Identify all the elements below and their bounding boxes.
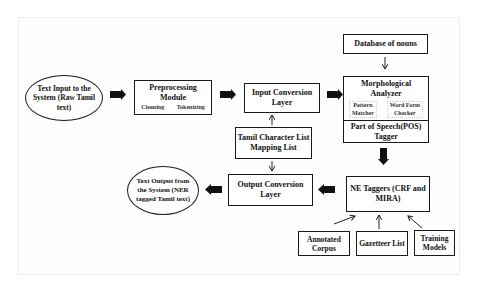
pattern-matcher: Pattern Matcher xyxy=(349,101,377,118)
training-line-2: Models xyxy=(423,243,446,252)
thin-arrow-training-to-ne xyxy=(408,216,422,228)
text-output-node: Text Output from the System (NER tagged … xyxy=(127,166,199,215)
word-form-checker-line-2: Checker xyxy=(390,110,421,118)
tamil-char-line-1: Tamil Character List xyxy=(238,133,310,143)
ne-taggers: NE Taggers (CRF and MIRA) xyxy=(346,176,430,212)
morph-title-1: Morphological xyxy=(361,79,411,89)
block-arrow-input-to-preprocessing xyxy=(110,89,126,100)
tamil-char-line-2: Mapping List xyxy=(250,143,296,153)
gazetteer-list: Gazetteer List xyxy=(356,231,408,256)
ne-line-1: NE Taggers (CRF and xyxy=(350,184,426,194)
pattern-matcher-line-2: Matcher xyxy=(352,110,374,118)
training-line-1: Training xyxy=(421,234,449,243)
database-of-nouns: Database of nouns xyxy=(343,34,428,54)
training-models: Training Models xyxy=(414,230,455,256)
morphological-analyzer: Morphological Analyzer Pattern Matcher W… xyxy=(343,76,429,143)
annotated-corpus: Annotated Corpus xyxy=(298,231,350,256)
tokenizing-label: Tokenizing xyxy=(177,104,205,112)
input-conversion-line-2: Layer xyxy=(272,98,292,108)
pos-line-1: Part of Speech(POS) xyxy=(344,122,428,132)
output-conversion-line-1: Output Conversion xyxy=(237,180,303,190)
text-input-node: Text Input to the System (Raw Tamil text… xyxy=(25,75,103,121)
ne-line-2: MIRA) xyxy=(376,194,401,204)
word-form-checker-line-1: Word Form xyxy=(390,102,421,110)
morph-title-2: Analyzer xyxy=(370,89,401,99)
output-conversion-line-2: Layer xyxy=(260,190,280,200)
gazetteer-label: Gazetteer List xyxy=(359,239,404,249)
morph-pos-divider xyxy=(344,120,428,121)
block-arrow-pos-to-ne xyxy=(378,148,389,165)
input-conversion-line-1: Input Conversion xyxy=(252,88,312,98)
block-arrow-ne-to-output-conversion xyxy=(318,184,335,195)
preprocessing-module: Preprocessing Module Cleaning Tokenizing xyxy=(134,80,212,115)
input-conversion-layer: Input Conversion Layer xyxy=(244,83,320,113)
database-label: Database of nouns xyxy=(354,39,417,49)
text-output-line-1: Text Output from xyxy=(136,177,190,186)
block-arrow-output-conversion-to-text-output xyxy=(205,184,222,195)
block-arrow-preprocessing-to-input-conversion xyxy=(220,89,236,100)
thin-arrow-corpus-to-ne xyxy=(334,216,355,224)
block-arrow-input-conversion-to-morph xyxy=(327,89,343,100)
word-form-checker: Word Form Checker xyxy=(387,101,424,118)
text-input-line-1: Text Input to the xyxy=(33,84,95,94)
pos-line-2: Tagger xyxy=(344,132,428,142)
text-output-line-2: the System (NER xyxy=(136,186,190,195)
text-input-line-3: text) xyxy=(33,103,95,113)
pattern-matcher-line-1: Pattern xyxy=(352,102,374,110)
corpus-line-1: Annotated xyxy=(307,235,341,244)
preprocessing-title-1: Preprocessing xyxy=(149,83,197,93)
output-conversion-layer: Output Conversion Layer xyxy=(228,174,313,206)
pos-tagger: Part of Speech(POS) Tagger xyxy=(344,122,428,142)
preprocessing-title-2: Module xyxy=(160,93,186,103)
text-input-line-2: System (Raw Tamil xyxy=(33,93,95,103)
tamil-character-list: Tamil Character List Mapping List xyxy=(235,127,312,159)
cleaning-label: Cleaning xyxy=(141,104,164,112)
corpus-line-2: Corpus xyxy=(312,244,336,253)
text-output-line-3: tagged Tamil text) xyxy=(136,195,190,204)
